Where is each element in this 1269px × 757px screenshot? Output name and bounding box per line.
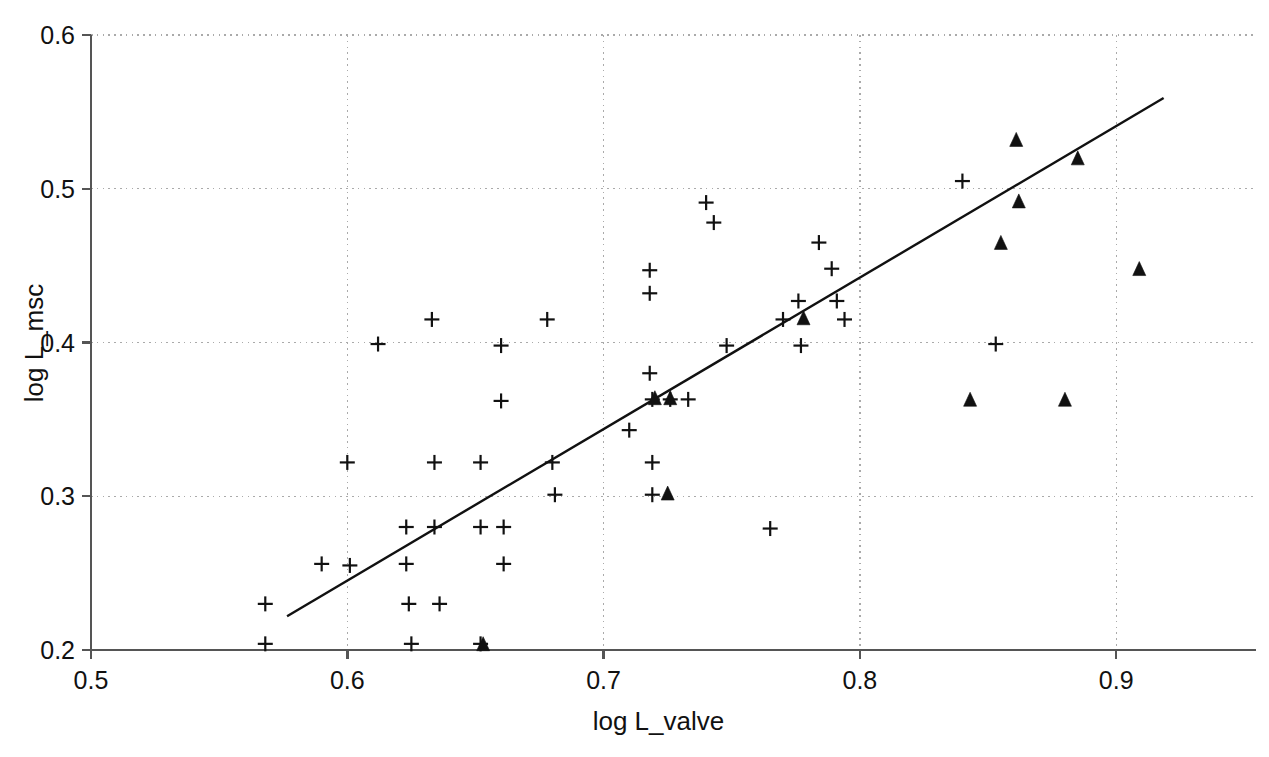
data-point-plus <box>955 174 970 189</box>
data-point-plus <box>342 558 357 573</box>
trend-line-segment <box>287 98 1164 616</box>
tick-marks-group <box>82 35 1116 659</box>
x-axis-tick-label: 0.7 <box>586 666 621 695</box>
data-point-plus <box>719 338 734 353</box>
data-point-plus <box>496 556 511 571</box>
data-point-plus <box>258 596 273 611</box>
gridlines-group <box>91 35 1256 650</box>
data-series-triangle <box>477 132 1146 650</box>
y-axis-tick-label: 0.3 <box>0 482 75 511</box>
data-point-plus <box>642 263 657 278</box>
data-point-plus <box>473 455 488 470</box>
data-point-plus <box>642 286 657 301</box>
data-point-plus <box>699 195 714 210</box>
data-point-triangle <box>1058 392 1071 406</box>
x-axis-title: log L_valve <box>593 706 725 737</box>
data-point-triangle <box>1012 194 1025 208</box>
data-point-triangle <box>661 486 674 500</box>
data-point-plus <box>399 556 414 571</box>
data-point-plus <box>988 337 1003 352</box>
data-point-plus <box>642 366 657 381</box>
data-point-plus <box>424 312 439 327</box>
data-point-triangle <box>994 235 1007 249</box>
data-point-plus <box>540 312 555 327</box>
data-point-plus <box>371 337 386 352</box>
data-point-triangle <box>1071 151 1084 165</box>
data-point-plus <box>494 393 509 408</box>
data-point-plus <box>494 338 509 353</box>
data-point-plus <box>793 338 808 353</box>
data-point-plus <box>473 520 488 535</box>
data-point-plus <box>791 293 806 308</box>
data-point-plus <box>547 487 562 502</box>
y-axis-tick-label: 0.6 <box>0 21 75 50</box>
data-point-plus <box>427 455 442 470</box>
x-axis-tick-label: 0.5 <box>74 666 109 695</box>
data-point-triangle <box>648 391 661 405</box>
data-point-plus <box>706 215 721 230</box>
data-point-plus <box>314 556 329 571</box>
data-point-plus <box>681 392 696 407</box>
y-axis-tick-label: 0.2 <box>0 636 75 665</box>
data-point-triangle <box>964 392 977 406</box>
data-point-plus <box>763 521 778 536</box>
data-point-plus <box>432 596 447 611</box>
y-axis-tick-label: 0.5 <box>0 174 75 203</box>
data-point-plus <box>645 487 660 502</box>
x-axis-tick-label: 0.9 <box>1099 666 1134 695</box>
data-point-plus <box>776 312 791 327</box>
regression-line <box>287 98 1164 616</box>
data-point-plus <box>837 312 852 327</box>
data-point-plus <box>399 520 414 535</box>
data-point-plus <box>829 293 844 308</box>
plot-canvas <box>0 0 1269 757</box>
scatter-plot-figure: 0.20.30.40.50.6 0.50.60.70.80.9 log L_va… <box>0 0 1269 757</box>
data-point-plus <box>811 235 826 250</box>
y-axis-title: log L_msc <box>19 283 50 402</box>
data-point-plus <box>645 455 660 470</box>
data-point-plus <box>340 455 355 470</box>
data-point-plus <box>824 261 839 276</box>
x-axis-tick-label: 0.6 <box>330 666 365 695</box>
x-axis-tick-label: 0.8 <box>843 666 878 695</box>
data-point-plus <box>496 520 511 535</box>
data-point-triangle <box>1010 132 1023 146</box>
data-point-triangle <box>1133 262 1146 276</box>
data-point-plus <box>401 596 416 611</box>
data-point-plus <box>622 423 637 438</box>
